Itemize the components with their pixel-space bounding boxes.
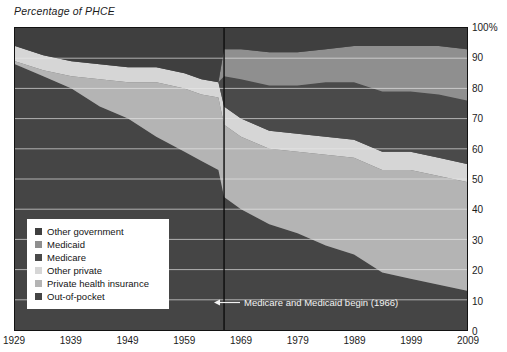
y-tick-60: 60 xyxy=(472,143,483,154)
y-tick-20: 20 xyxy=(472,265,483,276)
y-tick-50: 50 xyxy=(472,174,483,185)
legend-swatch-icon xyxy=(35,254,42,261)
legend-item-label: Other private xyxy=(47,264,102,277)
x-tick-2009: 2009 xyxy=(457,335,479,346)
legend-item-out-of-pocket: Out-of-pocket xyxy=(35,290,162,303)
legend-swatch-icon xyxy=(35,293,42,300)
y-axis-title: Percentage of PHCE xyxy=(14,5,115,17)
x-tick-1929: 1929 xyxy=(3,335,25,346)
legend-item-private-health-insurance: Private health insurance xyxy=(35,277,162,290)
legend-item-label: Other government xyxy=(47,225,124,238)
legend-item-label: Medicare xyxy=(47,251,86,264)
legend-item-label: Medicaid xyxy=(47,238,85,251)
annotation-medicare-medicaid: Medicare and Medicaid begin (1966) xyxy=(214,297,398,308)
legend-item-other-government: Other government xyxy=(35,225,162,238)
y-tick-100: 100% xyxy=(472,22,498,33)
y-tick-70: 70 xyxy=(472,113,483,124)
chart-figure: Percentage of PHCE 010203040506070809010… xyxy=(0,0,507,352)
y-tick-10: 10 xyxy=(472,295,483,306)
legend-item-medicaid: Medicaid xyxy=(35,238,162,251)
x-tick-1939: 1939 xyxy=(60,335,82,346)
left-arrow-icon xyxy=(214,298,240,307)
y-tick-80: 80 xyxy=(472,82,483,93)
x-tick-1999: 1999 xyxy=(400,335,422,346)
y-axis-ticks: 0102030405060708090100% xyxy=(472,27,507,331)
x-tick-1949: 1949 xyxy=(116,335,138,346)
y-tick-90: 90 xyxy=(472,52,483,63)
legend-swatch-icon xyxy=(35,267,42,274)
legend-item-medicare: Medicare xyxy=(35,251,162,264)
y-tick-30: 30 xyxy=(472,234,483,245)
legend-item-label: Out-of-pocket xyxy=(47,290,105,303)
legend: Other governmentMedicaidMedicareOther pr… xyxy=(27,219,169,309)
x-tick-1989: 1989 xyxy=(343,335,365,346)
legend-item-other-private: Other private xyxy=(35,264,162,277)
legend-swatch-icon xyxy=(35,241,42,248)
legend-swatch-icon xyxy=(35,228,42,235)
x-tick-1969: 1969 xyxy=(230,335,252,346)
x-tick-1979: 1979 xyxy=(287,335,309,346)
y-tick-40: 40 xyxy=(472,204,483,215)
legend-swatch-icon xyxy=(35,280,42,287)
legend-item-label: Private health insurance xyxy=(47,277,149,290)
annotation-text: Medicare and Medicaid begin (1966) xyxy=(244,297,398,308)
x-axis-ticks: 192919391949195919691979198919992009 xyxy=(0,333,507,352)
x-tick-1959: 1959 xyxy=(173,335,195,346)
